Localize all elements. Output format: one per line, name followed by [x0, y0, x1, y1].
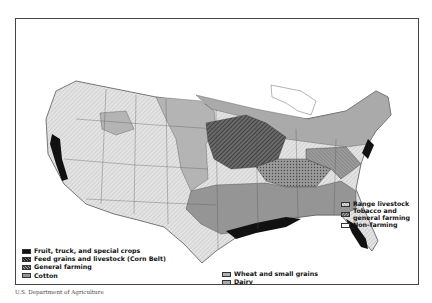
wheat-swatch-icon — [222, 272, 231, 277]
legend-item-general: General farming — [22, 263, 166, 271]
legend-item-corn-belt: Feed grains and livestock (Corn Belt) — [22, 255, 166, 263]
legend-right: Range livestock Tobacco andgeneral farmi… — [341, 200, 410, 229]
fruit-swatch-icon — [22, 249, 31, 254]
legend-item-cotton: Cotton — [22, 272, 166, 280]
source-credit: U.S. Department of Agriculture — [15, 289, 104, 295]
legend-center: Wheat and small grains Dairy — [222, 270, 318, 285]
legend-item-fruit: Fruit, truck, and special crops — [22, 247, 166, 255]
great-lakes — [271, 85, 316, 115]
map-frame: Fruit, truck, and special crops Feed gra… — [15, 18, 419, 285]
legend-item-tobacco: Tobacco andgeneral farming — [341, 208, 410, 221]
range-swatch-icon — [341, 202, 350, 207]
us-farming-map — [16, 19, 418, 284]
legend-item-dairy: Dairy — [222, 278, 318, 285]
legend-left: Fruit, truck, and special crops Feed gra… — [22, 247, 166, 280]
general-swatch-icon — [22, 265, 31, 270]
dairy-swatch-icon — [222, 280, 231, 285]
legend-item-nonfarming: Non-farming — [341, 221, 410, 229]
cotton-swatch-icon — [22, 273, 31, 278]
nonfarming-swatch-icon — [341, 223, 350, 228]
legend-item-wheat: Wheat and small grains — [222, 270, 318, 278]
tobacco-swatch-icon — [341, 212, 350, 217]
corn-belt-swatch-icon — [22, 257, 31, 262]
